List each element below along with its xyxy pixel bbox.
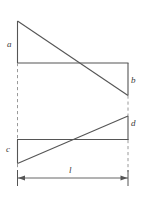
label-c: c [6, 145, 10, 154]
left-arrow-icon [18, 175, 25, 180]
label-length-l: l [69, 166, 72, 175]
label-a: a [7, 40, 12, 49]
label-d: d [131, 119, 136, 128]
dashed-connectors-group [18, 63, 129, 172]
upper-diagram-group [17, 21, 129, 96]
dimension-line-group [18, 170, 129, 186]
lower-diagram-group [17, 116, 129, 164]
upper-diagonal-line [18, 21, 129, 96]
figure-container: a b c d l [0, 0, 143, 206]
label-b: b [131, 76, 136, 85]
stress-diagram-svg [0, 0, 143, 206]
right-arrow-icon [121, 175, 128, 180]
